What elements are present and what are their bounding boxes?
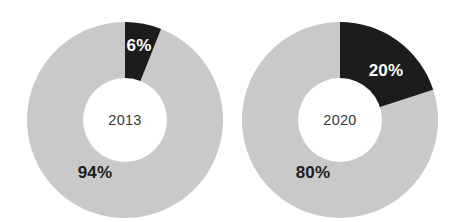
donut-label-remainder-2020: 80% <box>296 163 331 182</box>
donut-label-share-2013: 6% <box>127 36 152 55</box>
donut-chart-2013: 2013 6% 94% <box>27 22 223 218</box>
donut-chart-figure: 2013 6% 94% 2020 20% 80% <box>0 0 452 222</box>
donut-center-year-2013: 2013 <box>108 112 141 128</box>
donut-label-share-2020: 20% <box>369 61 404 80</box>
donut-chart-2020: 2020 20% 80% <box>242 22 438 218</box>
donut-center-year-2020: 2020 <box>323 112 356 128</box>
donut-charts-canvas: 2013 6% 94% 2020 20% 80% <box>0 0 452 222</box>
donut-label-remainder-2013: 94% <box>78 163 113 182</box>
